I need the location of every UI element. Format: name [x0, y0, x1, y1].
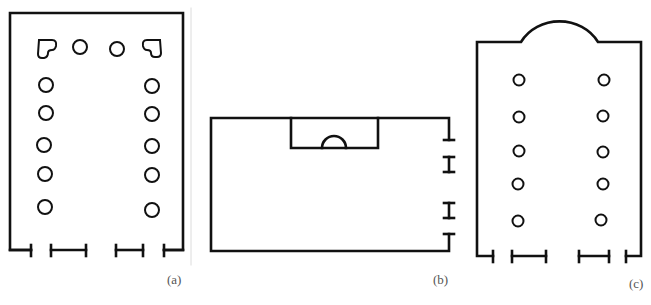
- plan-b-niche: [291, 118, 378, 148]
- plan-c-columns: [513, 75, 610, 227]
- floor-plan-figure: [0, 0, 651, 305]
- plan-b: [211, 118, 454, 251]
- panel-label-a: (a): [167, 272, 181, 288]
- plan-a-columns: [37, 40, 161, 217]
- panel-label-b: (b): [433, 272, 448, 288]
- plan-b-side-openings: [444, 157, 454, 218]
- plan-b-apse: [322, 136, 346, 148]
- plan-a: [10, 13, 183, 256]
- plan-c-front-wall: [493, 251, 626, 262]
- plan-c-outer-wall: [477, 21, 641, 256]
- plan-c: [477, 21, 641, 262]
- corner-pier-right: [143, 40, 161, 57]
- panel-label-c: (c): [629, 276, 643, 292]
- plan-a-front-wall: [10, 245, 183, 256]
- corner-pier-left: [38, 40, 56, 58]
